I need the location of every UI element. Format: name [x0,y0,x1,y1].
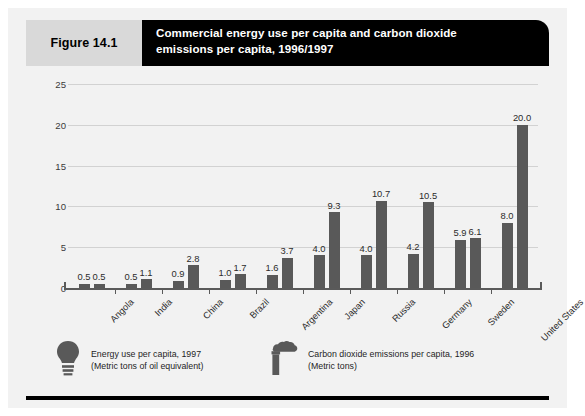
category-label: Argentina [299,297,334,332]
bar-value-label: 0.5 [124,271,137,282]
bar-value-label: 5.9 [453,227,466,238]
bar-value-label: 20.0 [513,112,531,123]
bar [423,202,434,288]
figure-number-label: Figure 14.1 [50,36,117,50]
y-tick-label: 20 [55,119,66,130]
chart-legend: Energy use per capita, 1997 (Metric tons… [54,340,534,382]
gridline [68,84,538,85]
chart-plot-area: 0510152025 0.50.50.51.10.92.81.01.71.63.… [68,84,538,288]
legend-co2-text: Carbon dioxide emissions per capita, 199… [299,340,474,372]
bar-value-label: 1.7 [233,262,246,273]
bar [282,258,293,288]
category-label: China [201,297,225,321]
bar [141,279,152,288]
bar-value-label: 4.0 [359,243,372,254]
gridline [68,247,538,248]
legend-item-co2: Carbon dioxide emissions per capita, 199… [265,340,474,376]
bar [220,280,231,288]
gridline [68,206,538,207]
y-tick-label: 25 [55,79,66,90]
bar [314,255,325,288]
x-axis-right-cap [540,282,542,290]
smokestack-icon [265,340,299,376]
category-label: Brazil [247,297,270,320]
category-label: Russia [390,297,417,324]
bar [361,255,372,288]
category-label: Germany [440,297,474,331]
y-tick-label: 10 [55,201,66,212]
legend-energy-line-2: (Metric tons of oil equivalent) [91,361,203,373]
bar [455,240,466,288]
bar-value-label: 0.5 [92,271,105,282]
category-label: Angola [108,297,135,324]
y-tick-label: 5 [61,242,66,253]
bar-value-label: 4.0 [312,243,325,254]
bar-value-label: 1.0 [218,267,231,278]
gridline [68,125,538,126]
bar-value-label: 0.9 [171,268,184,279]
lightbulb-icon [54,340,82,376]
bar-value-label: 0.5 [77,271,90,282]
bar [188,265,199,288]
legend-co2-line-1: Carbon dioxide emissions per capita, 199… [308,349,474,361]
legend-co2-line-2: (Metric tons) [308,361,474,373]
bar [470,238,481,288]
bar [517,125,528,288]
bar [329,212,340,288]
bar-value-label: 3.7 [280,245,293,256]
bar-value-label: 10.5 [419,190,437,201]
bar-value-label: 1.1 [139,267,152,278]
figure-header: Figure 14.1 Commercial energy use per ca… [26,20,549,66]
bar [235,274,246,288]
bar [173,281,184,288]
bar-value-label: 9.3 [327,200,340,211]
legend-item-energy: Energy use per capita, 1997 (Metric tons… [54,340,203,376]
legend-energy-line-1: Energy use per capita, 1997 [91,349,203,361]
category-label: India [152,297,173,318]
figure-number-box: Figure 14.1 [26,20,142,66]
x-axis-line [64,288,542,290]
bar [376,201,387,288]
gridline [68,166,538,167]
bar [408,254,419,288]
y-tick-label: 15 [55,160,66,171]
bar-value-label: 10.7 [372,188,390,199]
category-label: Sweden [485,297,516,328]
bar-value-label: 1.6 [265,262,278,273]
category-label: United States [539,297,585,343]
bar-value-label: 4.2 [406,241,419,252]
bar-value-label: 6.1 [468,226,481,237]
legend-energy-text: Energy use per capita, 1997 (Metric tons… [82,340,203,372]
figure-title-line-1: Commercial energy use per capita and car… [156,25,549,41]
figure-bottom-rule [26,396,549,400]
figure-panel: Figure 14.1 Commercial energy use per ca… [8,8,567,408]
bar [267,275,278,288]
bar-value-label: 8.0 [500,210,513,221]
figure-title-line-2: emissions per capita, 1996/1997 [156,41,549,57]
bar [502,223,513,288]
category-label: Japan [342,297,367,322]
bar-value-label: 2.8 [186,253,199,264]
figure-title-banner: Commercial energy use per capita and car… [142,20,549,66]
x-axis-left-cap [64,282,66,290]
